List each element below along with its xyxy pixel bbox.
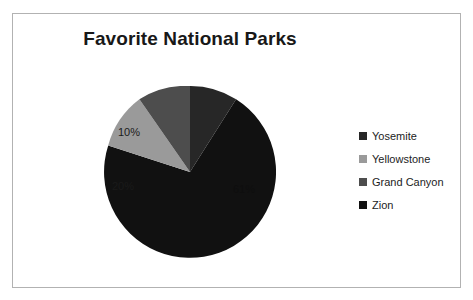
legend-swatch-icon-grand-canyon [359,178,367,186]
legend-item-yosemite[interactable]: Yosemite [359,124,459,147]
chart-title: Favorite National Parks [40,28,340,50]
legend-label-yosemite: Yosemite [372,130,417,142]
legend-item-yellowstone[interactable]: Yellowstone [359,147,459,170]
legend-swatch-icon-yellowstone [359,155,367,163]
legend-swatch-icon-zion [359,201,367,209]
chart-legend: Yosemite Yellowstone Grand Canyon Zion [359,124,459,216]
slice-label-zion: 61% [233,183,255,195]
legend-swatch-icon-yosemite [359,132,367,140]
pie-svg [104,86,276,258]
legend-label-grand-canyon: Grand Canyon [372,176,444,188]
pie-chart-container: Favorite National Parks 10% 20% 61% Yose… [0,0,473,300]
slice-label-grand-canyon: 10% [118,126,140,138]
legend-label-yellowstone: Yellowstone [372,153,430,165]
legend-item-zion[interactable]: Zion [359,193,459,216]
legend-label-zion: Zion [372,199,393,211]
slice-label-yellowstone: 20% [112,180,134,192]
legend-item-grand-canyon[interactable]: Grand Canyon [359,170,459,193]
pie-plot-area [104,86,276,258]
